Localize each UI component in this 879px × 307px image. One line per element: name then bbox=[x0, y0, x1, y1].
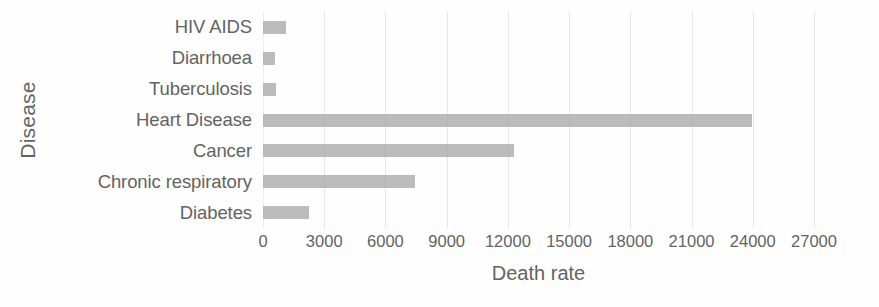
plot-wrapper: HIV AIDS Diarrhoea Tuberculosis Heart Di… bbox=[0, 0, 879, 240]
x-tick-label: 9000 bbox=[428, 232, 465, 251]
x-tick-label: 3000 bbox=[306, 232, 343, 251]
bar-row bbox=[263, 74, 814, 105]
x-axis-tick-labels: 0300060009000120001500018000210002400027… bbox=[263, 232, 814, 256]
x-axis-title: Death rate bbox=[263, 262, 814, 285]
bar-chart: Disease HIV AIDS Diarrhoea Tuberculosis … bbox=[0, 0, 879, 307]
x-tick-label: 12000 bbox=[485, 232, 531, 251]
x-tick-label: 0 bbox=[258, 232, 267, 251]
y-tick-label: HIV AIDS bbox=[48, 12, 256, 43]
bar-row bbox=[263, 12, 814, 43]
bar-cancer bbox=[263, 144, 514, 157]
x-tick-label: 21000 bbox=[669, 232, 715, 251]
bar-diarrhoea bbox=[263, 52, 275, 65]
y-tick-label: Diabetes bbox=[48, 197, 256, 228]
plot-area bbox=[263, 12, 814, 228]
x-tick-label: 15000 bbox=[546, 232, 592, 251]
bar-diabetes bbox=[263, 206, 309, 219]
bar-tuberculosis bbox=[263, 83, 276, 96]
bar-chronic-respiratory bbox=[263, 175, 415, 188]
x-tick-label: 24000 bbox=[730, 232, 776, 251]
x-tick-label: 18000 bbox=[607, 232, 653, 251]
x-tick-label: 27000 bbox=[791, 232, 837, 251]
y-tick-label: Cancer bbox=[48, 135, 256, 166]
bar-row bbox=[263, 135, 814, 166]
bar-heart-disease bbox=[263, 114, 752, 127]
bar-series bbox=[263, 12, 814, 228]
y-tick-label: Diarrhoea bbox=[48, 43, 256, 74]
y-axis-tick-labels: HIV AIDS Diarrhoea Tuberculosis Heart Di… bbox=[48, 12, 256, 228]
bar-row bbox=[263, 105, 814, 136]
y-tick-label: Chronic respiratory bbox=[48, 166, 256, 197]
bar-row bbox=[263, 43, 814, 74]
y-tick-label: Tuberculosis bbox=[48, 74, 256, 105]
bar-row bbox=[263, 166, 814, 197]
bar-hiv-aids bbox=[263, 21, 286, 34]
gridline bbox=[814, 12, 815, 228]
x-tick-label: 6000 bbox=[367, 232, 404, 251]
bar-row bbox=[263, 197, 814, 228]
y-tick-label: Heart Disease bbox=[48, 105, 256, 136]
